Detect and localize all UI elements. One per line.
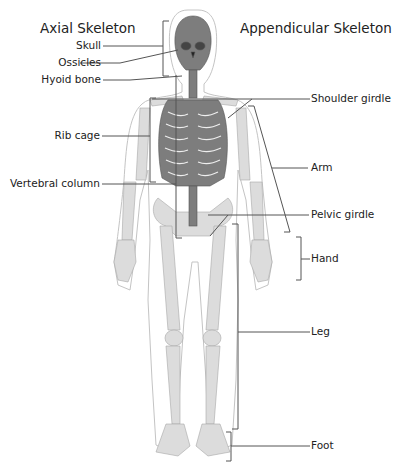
- appendicular-skeleton-heading: Appendicular Skeleton: [240, 20, 392, 36]
- label-hand: Hand: [311, 252, 339, 264]
- label-ossicles: Ossicles: [58, 56, 101, 68]
- label-arm: Arm: [311, 161, 333, 173]
- skeleton-illustration: [0, 0, 393, 471]
- label-vertebral-column: Vertebral column: [10, 177, 100, 189]
- label-foot: Foot: [311, 439, 334, 451]
- skeleton-diagram: Axial Skeleton Appendicular Skeleton Sku…: [0, 0, 393, 471]
- label-hyoid-bone: Hyoid bone: [41, 73, 101, 85]
- label-pelvic-girdle: Pelvic girdle: [311, 208, 374, 220]
- label-skull: Skull: [76, 39, 101, 51]
- label-rib-cage: Rib cage: [54, 129, 100, 141]
- axial-skeleton-heading: Axial Skeleton: [40, 20, 136, 36]
- label-shoulder-girdle: Shoulder girdle: [311, 92, 391, 104]
- label-leg: Leg: [311, 325, 330, 337]
- axial-bones: [159, 16, 228, 226]
